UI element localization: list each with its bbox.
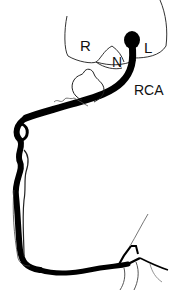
label-rca: RCA <box>134 83 164 97</box>
label-noncoronary-cusp: N <box>112 55 122 69</box>
label-right-cusp: R <box>80 38 91 53</box>
rca-diagram: R N L RCA <box>0 0 180 294</box>
rca-distal <box>40 264 128 273</box>
label-left-cusp: L <box>144 40 152 55</box>
crux-branches <box>118 214 168 290</box>
